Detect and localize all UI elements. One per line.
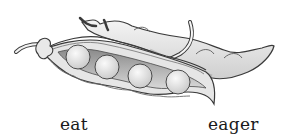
word-label-eager: eager [208, 114, 259, 134]
pea [95, 55, 119, 79]
pea-pod-illustration [0, 0, 298, 115]
pea [66, 45, 90, 69]
pea [166, 70, 190, 94]
pea [128, 64, 152, 88]
pod-stem [16, 38, 53, 58]
word-label-eat: eat [60, 114, 88, 134]
